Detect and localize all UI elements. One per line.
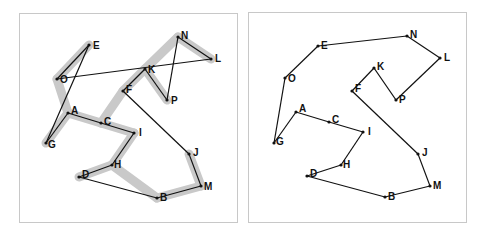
node-dot-icon [132,131,135,134]
node-label: H [114,159,121,170]
node-K: K [372,61,385,72]
node-label: E [93,40,100,51]
node-dot-icon [361,130,364,133]
edge-E-N [318,36,407,46]
node-dot-icon [383,195,386,198]
node-G: G [272,136,284,147]
node-I: I [361,126,371,137]
node-dot-icon [121,89,124,92]
node-label: D [310,168,317,179]
node-B: B [383,191,395,202]
node-dot-icon [405,34,408,37]
node-F: F [350,83,361,94]
node-dot-icon [155,196,158,199]
node-label: M [433,180,441,191]
node-label: I [368,126,371,137]
node-label: N [410,29,417,40]
node-dot-icon [55,77,58,80]
node-label: J [193,147,199,158]
node-label: A [71,105,78,116]
node-O: O [283,73,296,84]
node-dot-icon [99,121,102,124]
node-P: P [394,94,406,105]
node-label: F [355,83,361,94]
node-E: E [316,40,328,51]
node-label: K [148,64,156,75]
node-dot-icon [316,44,319,47]
tour-diagram-canvas: EONLKFPACIGJHDMB ENLOKFPACIGJHDMB [0,0,484,230]
right-nodes: ENLOKFPACIGJHDMB [272,29,450,202]
edge-P-K [374,68,396,100]
node-label: P [171,95,178,106]
node-dot-icon [372,66,375,69]
node-dot-icon [294,110,297,113]
node-dot-icon [350,89,353,92]
node-dot-icon [416,152,419,155]
node-dot-icon [428,184,431,187]
edge-G-O [274,78,285,143]
node-label: D [82,169,89,180]
node-H: H [339,159,350,170]
node-label: L [215,53,221,64]
left-highlight-path [46,37,211,198]
node-label: O [288,73,296,84]
node-label: P [399,94,406,105]
node-dot-icon [209,57,212,60]
node-label: I [139,127,142,138]
node-dot-icon [199,184,202,187]
edge-E-G [46,45,89,143]
node-dot-icon [87,43,90,46]
node-label: M [204,181,212,192]
node-label: O [60,74,68,85]
node-label: E [321,40,328,51]
node-dot-icon [165,98,168,101]
node-D: D [305,168,317,179]
right-edges [274,36,440,197]
node-dot-icon [66,111,69,114]
edge-F-J [352,91,418,154]
node-label: N [181,30,188,41]
node-C: C [327,114,339,125]
node-dot-icon [305,174,308,177]
node-label: G [48,139,56,150]
node-dot-icon [283,76,286,79]
node-label: C [104,116,111,127]
node-label: L [444,52,450,63]
node-dot-icon [394,98,397,101]
node-N: N [405,29,417,40]
node-dot-icon [327,120,330,123]
node-M: M [428,180,441,191]
node-label: B [160,192,167,203]
node-label: B [388,191,395,202]
node-label: H [343,159,350,170]
edge-J-F [123,91,189,154]
node-label: A [299,103,306,114]
node-label: K [377,61,385,72]
node-A: A [294,103,306,114]
node-dot-icon [438,56,441,59]
node-label: C [332,114,339,125]
node-J: J [416,147,427,158]
node-dot-icon [143,67,146,70]
node-L: L [438,52,450,63]
node-label: G [276,136,284,147]
edge-B-D [307,176,385,197]
node-label: J [422,147,428,158]
node-dot-icon [77,175,80,178]
node-label: F [126,84,132,95]
edge-J-M [418,154,430,186]
node-dot-icon [176,35,179,38]
node-dot-icon [187,152,190,155]
